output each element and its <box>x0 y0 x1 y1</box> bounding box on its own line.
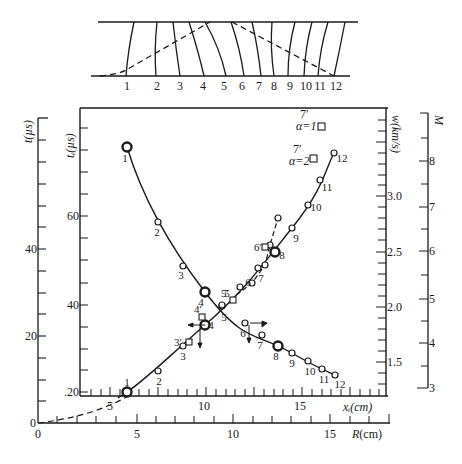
svg-text:12: 12 <box>337 152 348 164</box>
R-axis-title: RR(cm)(cm) <box>351 427 382 441</box>
svg-text:1: 1 <box>122 152 128 164</box>
svg-text:1: 1 <box>124 376 130 388</box>
svg-text:5′: 5′ <box>221 287 229 299</box>
R-tick-label: 0 <box>35 427 41 441</box>
svg-text:5: 5 <box>221 311 227 323</box>
svg-text:10: 10 <box>305 365 317 377</box>
ti-tick-label: .20 <box>64 385 79 399</box>
station-label: 4 <box>200 79 206 93</box>
svg-text:3′: 3′ <box>174 336 182 348</box>
svg-text:12: 12 <box>335 378 346 390</box>
t-tick-label: 40 <box>25 242 37 256</box>
ti-tick-label: 40 <box>67 298 79 312</box>
M-tick-label: 4 <box>429 336 435 350</box>
station-label: 6 <box>239 79 245 93</box>
w-axis-ticks <box>376 120 386 384</box>
station-label: 9 <box>287 79 293 93</box>
point-labels: 123 456 789 101112 123 456 789 101112 3′… <box>122 152 347 390</box>
w-tick-label: 2.5 <box>387 245 402 259</box>
chart-figure: 1 2 3 4 5 6 7 8 9 10 11 12 <box>0 0 462 464</box>
svg-text:3: 3 <box>180 350 186 362</box>
R-tick-label: 5 <box>134 427 140 441</box>
station-label: 7 <box>256 79 262 93</box>
ti-tick-label: 60 <box>67 209 79 223</box>
station-label: 5 <box>221 79 227 93</box>
station-label: 12 <box>330 79 342 93</box>
svg-text:2: 2 <box>154 226 160 238</box>
svg-text:3: 3 <box>178 269 184 281</box>
M-tick-label: 7 <box>429 200 435 214</box>
svg-text:8: 8 <box>279 249 285 261</box>
station-label: 1 <box>124 79 130 93</box>
station-label: 3 <box>177 79 183 93</box>
station-label: 10 <box>300 79 312 93</box>
M-tick-label: 3 <box>429 381 435 395</box>
svg-text:α=1: α=1 <box>296 119 316 133</box>
ti-axis-ticks <box>80 128 88 392</box>
tube-schematic <box>91 22 358 76</box>
R-tick-label: 15 <box>324 427 336 441</box>
w-tick-label: 1.5 <box>387 355 402 369</box>
t-axis <box>38 118 48 423</box>
t-tick-label: 20 <box>25 329 37 343</box>
svg-text:11: 11 <box>322 181 333 193</box>
w-tick-label: 3.0 <box>387 189 402 203</box>
xi-axis-title: xᵢ(cm) <box>342 400 372 414</box>
w-decreasing-curve <box>127 147 335 375</box>
station-label: 8 <box>271 79 277 93</box>
svg-text:9: 9 <box>289 357 295 369</box>
svg-text:α=2: α=2 <box>289 154 309 168</box>
w-points <box>123 143 339 379</box>
station-label: 11 <box>314 79 326 93</box>
svg-text:2: 2 <box>156 375 162 387</box>
M-axis <box>417 113 428 388</box>
xi-tick-label: 10 <box>198 399 210 413</box>
station-label: 2 <box>154 79 160 93</box>
svg-text:4: 4 <box>208 319 214 331</box>
ti-increasing-curve <box>118 153 334 398</box>
M-tick-label: 6 <box>429 244 435 258</box>
M-axis-title: M <box>432 114 446 126</box>
w-axis-title: w(km/s) <box>389 115 403 153</box>
station-labels: 1 2 3 4 5 6 7 8 9 10 11 12 <box>124 79 342 93</box>
svg-text:6: 6 <box>245 276 251 288</box>
svg-text:10: 10 <box>311 201 323 213</box>
ti-axis-title: tᵢ(µs) <box>63 133 77 158</box>
M-tick-label: 5 <box>429 292 435 306</box>
svg-text:4′: 4′ <box>194 303 202 315</box>
xi-tick-label: 15 <box>294 399 306 413</box>
svg-text:9: 9 <box>293 232 299 244</box>
svg-text:7: 7 <box>258 272 264 284</box>
svg-text:11: 11 <box>319 373 330 385</box>
svg-text:6: 6 <box>240 327 246 339</box>
R-axis <box>38 414 390 423</box>
w-tick-label: 2.0 <box>387 300 402 314</box>
direction-arrows <box>188 321 267 348</box>
svg-text:8: 8 <box>273 350 279 362</box>
R-tick-label: 10 <box>227 427 239 441</box>
M-tick-label: 8 <box>429 154 435 168</box>
svg-text:7: 7 <box>257 339 263 351</box>
t-axis-title: t(µs) <box>21 120 35 143</box>
svg-text:6′: 6′ <box>254 241 262 253</box>
